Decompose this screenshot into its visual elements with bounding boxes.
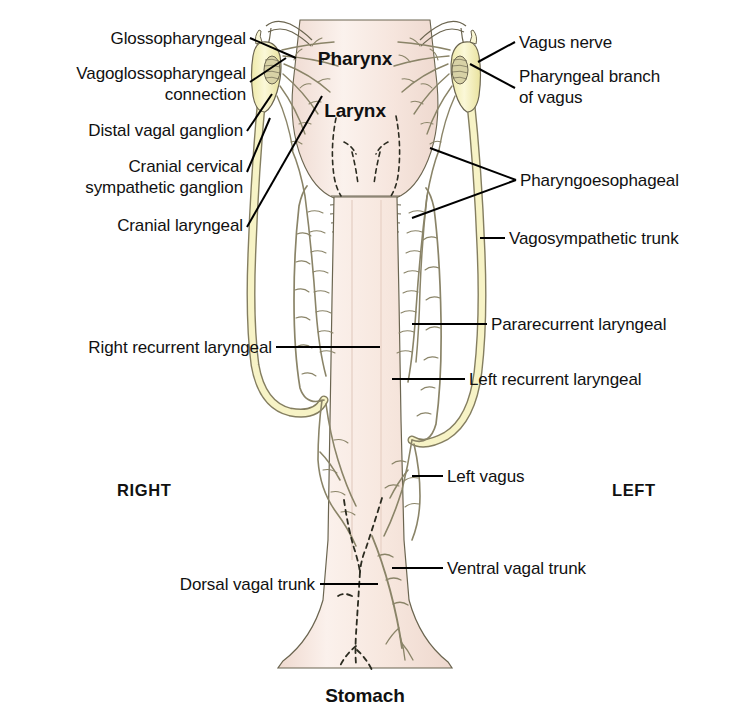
label-glossopharyngeal: Glossopharyngeal (26, 28, 246, 49)
label-ventral-vagal-trunk: Ventral vagal trunk (447, 558, 647, 579)
label-left-vagus: Left vagus (447, 466, 587, 487)
organ-label-stomach: Stomach (285, 685, 445, 706)
label-pharyngeal-branch-of-vagus-line2: of vagus (519, 87, 729, 108)
label-vagoglossopharyngeal-connection-line1: Vagoglossopharyngeal (6, 63, 246, 84)
label-pharyngeal-branch-of-vagus-line1: Pharyngeal branch (519, 66, 729, 87)
label-cranial-cervical-sympathetic-ganglion-line1: Cranial cervical (28, 156, 243, 177)
leader-vagus-nerve (478, 42, 515, 62)
label-vagus-nerve: Vagus nerve (519, 32, 724, 53)
label-dorsal-vagal-trunk: Dorsal vagal trunk (142, 574, 315, 595)
label-left-recurrent-laryngeal: Left recurrent laryngeal (469, 369, 704, 390)
label-right-recurrent-laryngeal: Right recurrent laryngeal (32, 337, 272, 358)
organ-label-larynx: Larynx (300, 100, 410, 121)
label-distal-vagal-ganglion: Distal vagal ganglion (28, 120, 243, 141)
label-vagosympathetic-trunk: Vagosympathetic trunk (509, 228, 727, 249)
leader-pharyngoesophageal-lower (412, 180, 516, 218)
label-pararecurrent-laryngeal: Pararecurrent laryngeal (491, 314, 721, 335)
label-pharyngoesophageal: Pharyngoesophageal (520, 170, 730, 191)
esophagus (278, 197, 452, 668)
organ-label-pharynx: Pharynx (295, 48, 415, 69)
label-cranial-laryngeal: Cranial laryngeal (58, 215, 243, 236)
side-label-left: LEFT (612, 480, 656, 501)
label-vagoglossopharyngeal-connection-line2: connection (6, 84, 246, 105)
side-label-right: RIGHT (117, 480, 171, 501)
label-cranial-cervical-sympathetic-ganglion-line2: sympathetic ganglion (18, 177, 243, 198)
right-recurrent-laryngeal-nerve (294, 186, 324, 402)
